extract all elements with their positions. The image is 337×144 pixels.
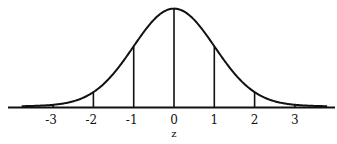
normal-distribution-chart: -3-2-10123 z: [0, 0, 337, 144]
x-tick-label: 1: [210, 113, 218, 127]
x-tick-label: 2: [251, 113, 259, 127]
x-axis-label: z: [171, 128, 176, 139]
x-tick-label: 0: [170, 113, 178, 127]
x-tick-label: 3: [291, 113, 299, 127]
x-tick-labels: -3-2-10123: [45, 113, 298, 127]
x-tick-label: -3: [45, 113, 57, 127]
x-tick-label: -1: [126, 113, 138, 127]
x-tick-label: -2: [86, 113, 98, 127]
z-vertical-lines: [53, 9, 295, 108]
